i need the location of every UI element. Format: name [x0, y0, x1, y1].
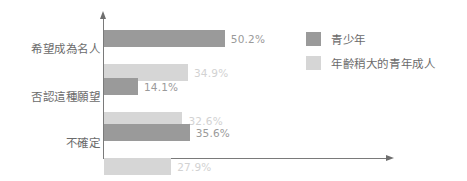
- bar-segment[interactable]: [104, 30, 225, 47]
- legend-label: 年齡稍大的青年成人: [331, 55, 435, 71]
- bar-value-label: 35.6%: [196, 127, 230, 139]
- category-label: 希望成為名人: [4, 40, 100, 56]
- legend-item[interactable]: 青少年: [306, 27, 435, 51]
- legend-swatch-icon: [306, 32, 321, 46]
- bar-group: 14.1%32.6%: [104, 78, 388, 112]
- bar-segment[interactable]: [104, 158, 171, 175]
- chart-legend: 青少年年齡稍大的青年成人: [306, 27, 435, 75]
- bar-value-label: 14.1%: [144, 81, 178, 93]
- bar-chart-figure: 希望成為名人否認這種願望不確定 50.2%34.9%14.1%32.6%35.6…: [0, 0, 467, 181]
- bar-row: 27.9%: [104, 158, 388, 175]
- bar-value-label: 27.9%: [177, 161, 211, 173]
- bar-segment[interactable]: [104, 78, 138, 95]
- category-label: 不確定: [4, 134, 100, 150]
- legend-label: 青少年: [331, 31, 366, 47]
- bar-value-label: 34.9%: [194, 67, 228, 79]
- bar-row: 35.6%: [104, 124, 388, 141]
- category-label: 否認這種願望: [4, 88, 100, 104]
- bar-segment[interactable]: [104, 124, 190, 141]
- bar-group: 35.6%27.9%: [104, 124, 388, 158]
- category-axis-labels: 希望成為名人否認這種願望不確定: [0, 18, 100, 158]
- bar-row: 14.1%: [104, 78, 388, 95]
- legend-swatch-icon: [306, 56, 321, 70]
- bar-value-label: 50.2%: [231, 33, 265, 45]
- legend-item[interactable]: 年齡稍大的青年成人: [306, 51, 435, 75]
